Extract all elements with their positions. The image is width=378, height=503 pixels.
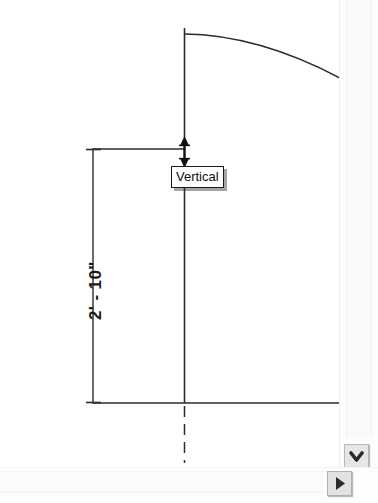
cad-drawing-window: 2' - 10" Vertical — [0, 0, 378, 503]
scroll-right-button[interactable] — [327, 471, 352, 496]
vertical-scrollbar-track[interactable] — [346, 0, 372, 438]
vertical-snap-arrow — [179, 136, 190, 168]
drawing-canvas[interactable]: 2' - 10" Vertical — [0, 0, 340, 468]
scroll-down-button[interactable] — [344, 444, 369, 469]
vertical-scrollbar[interactable] — [339, 0, 378, 470]
roof-arc[interactable] — [185, 34, 341, 78]
horizontal-scrollbar-track[interactable] — [0, 471, 340, 493]
drawing-geometry — [0, 0, 340, 468]
horizontal-scrollbar[interactable] — [0, 467, 378, 503]
snap-tooltip: Vertical — [171, 166, 224, 188]
chevron-down-icon — [345, 445, 368, 468]
chevron-right-icon — [328, 472, 351, 495]
